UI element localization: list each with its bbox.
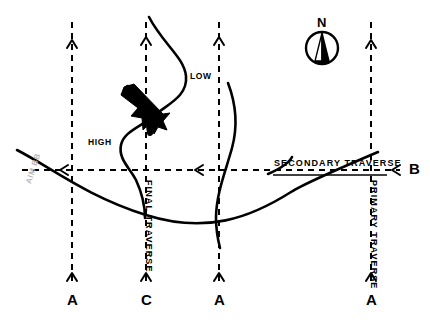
station-a-mid-label: A	[214, 292, 225, 307]
low-label: LOW	[190, 72, 212, 81]
final-traverse-label: FINAL TRAVERSE	[144, 180, 153, 273]
compass-rose-icon	[306, 32, 338, 64]
arrow-up-a-mid-top	[214, 37, 224, 45]
primary-traverse-label: PRIMARY TRAVERSE	[369, 180, 378, 289]
station-a-left-label: A	[67, 292, 78, 307]
station-c-label: C	[141, 292, 152, 307]
compass-north-label: N	[317, 16, 326, 29]
weather-traverse-diagram: LOW HIGH SECONDARY TRAVERSE PRIMARY TRAV…	[0, 0, 430, 327]
station-a-right-label: A	[366, 292, 377, 307]
station-b-label: B	[409, 161, 420, 176]
secondary-traverse-label: SECONDARY TRAVERSE	[274, 159, 402, 168]
high-label: HIGH	[88, 138, 112, 147]
arrow-up-c-top	[141, 37, 151, 45]
